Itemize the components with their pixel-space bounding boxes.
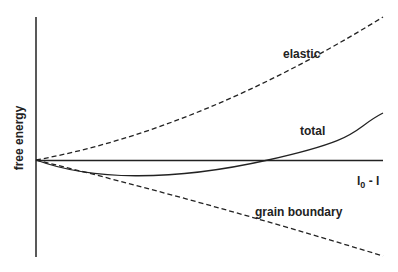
free-energy-diagram: elastic total grain boundary l0 - l free…: [0, 0, 398, 272]
x-axis-label: l0 - l: [357, 174, 379, 190]
elastic-label: elastic: [283, 47, 321, 61]
grain-boundary-label: grain boundary: [255, 205, 343, 219]
elastic-curve: [36, 17, 383, 160]
y-axis-label: free energy: [12, 105, 26, 170]
total-curve: [36, 113, 383, 176]
total-label: total: [300, 124, 325, 138]
